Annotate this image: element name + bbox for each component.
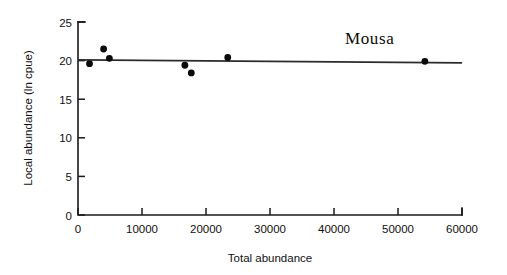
data-point <box>106 55 113 62</box>
y-axis-tick-labels: 0 5 10 15 20 25 <box>59 17 72 222</box>
y-axis-ticks <box>78 22 85 215</box>
chart-figure: 0 5 10 15 20 25 0 10000 20000 30000 4000… <box>0 0 507 275</box>
data-point <box>100 46 107 53</box>
data-point <box>86 60 93 67</box>
axes-group <box>78 22 462 215</box>
x-tick-label-50000: 50000 <box>382 223 414 235</box>
y-tick-label-25: 25 <box>59 17 72 29</box>
plot-title: Mousa <box>345 29 394 48</box>
data-point <box>181 62 188 69</box>
x-tick-label-10000: 10000 <box>126 223 158 235</box>
y-tick-label-15: 15 <box>59 94 72 106</box>
data-point <box>421 58 428 65</box>
axis-spines <box>78 22 462 215</box>
x-tick-label-0: 0 <box>75 223 81 235</box>
regression-trend-line <box>78 60 462 63</box>
x-tick-label-40000: 40000 <box>318 223 350 235</box>
scatter-plot-svg: 0 5 10 15 20 25 0 10000 20000 30000 4000… <box>0 0 507 275</box>
x-axis-title: Total abundance <box>228 252 312 264</box>
data-point <box>188 70 195 77</box>
y-tick-label-20: 20 <box>59 55 72 67</box>
x-axis-ticks <box>78 208 462 215</box>
y-tick-label-5: 5 <box>66 171 72 183</box>
x-axis-tick-labels: 0 10000 20000 30000 40000 50000 60000 <box>75 223 478 235</box>
x-tick-label-30000: 30000 <box>254 223 286 235</box>
x-tick-label-20000: 20000 <box>190 223 222 235</box>
data-point <box>224 54 231 61</box>
x-tick-label-60000: 60000 <box>446 223 478 235</box>
y-tick-label-0: 0 <box>66 210 72 222</box>
y-axis-title: Local abundance (ln cpue) <box>22 50 34 186</box>
y-tick-label-10: 10 <box>59 132 72 144</box>
